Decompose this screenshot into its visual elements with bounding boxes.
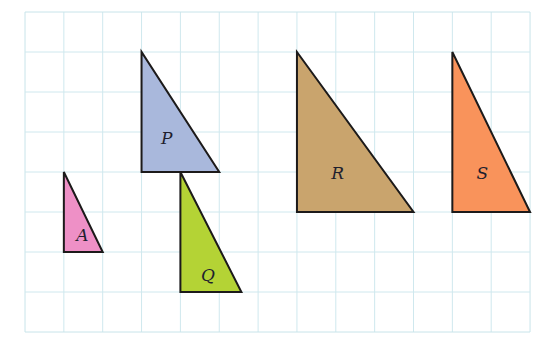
- triangle-q: Q: [180, 172, 241, 292]
- triangle-label: P: [160, 128, 173, 148]
- triangle-label: R: [330, 163, 344, 183]
- triangle-label: S: [476, 163, 488, 183]
- triangle-label: Q: [201, 265, 215, 285]
- grid-diagram: APQRS: [0, 0, 545, 340]
- triangle-label: A: [74, 225, 88, 245]
